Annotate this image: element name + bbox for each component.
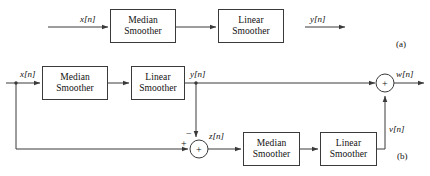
block-b-median-smoother-forward: Median Smoother	[42, 66, 108, 100]
label-b-correction-vn: v[n]	[389, 125, 405, 134]
block-a-median-line2: Smoother	[124, 26, 162, 37]
block-b-median-res-line2: Smoother	[253, 149, 291, 160]
adder-inner-plus-symbol: +	[196, 145, 202, 155]
label-a-input-xn: x[n]	[80, 15, 96, 24]
figure-block-diagram: Median Smoother Linear Smoother x[n] y[n…	[0, 0, 430, 176]
sign-positive-xn: +	[181, 139, 187, 149]
block-b-median-res-line1: Median	[257, 138, 287, 149]
label-b-input-xn: x[n]	[20, 70, 36, 79]
caption-b: (b)	[397, 152, 408, 161]
label-b-mid-yn: y[n]	[190, 70, 206, 79]
block-b-linear-fwd-line1: Linear	[145, 72, 170, 83]
caption-a: (a)	[396, 40, 406, 49]
block-b-linear-smoother-forward: Linear Smoother	[131, 66, 185, 100]
block-a-linear-line2: Smoother	[232, 26, 270, 37]
block-a-median-line1: Median	[128, 15, 158, 26]
block-b-linear-smoother-residual: Linear Smoother	[320, 132, 377, 166]
block-a-linear-smoother: Linear Smoother	[218, 9, 284, 43]
adder-output-plus-symbol: +	[382, 79, 388, 89]
block-a-median-smoother: Median Smoother	[110, 9, 176, 43]
block-b-median-fwd-line2: Smoother	[56, 83, 94, 94]
block-b-linear-fwd-line2: Smoother	[139, 83, 177, 94]
label-b-error-zn: z[n]	[209, 132, 224, 141]
label-a-output-yn: y[n]	[310, 15, 326, 24]
block-b-median-smoother-residual: Median Smoother	[243, 132, 300, 166]
block-b-linear-res-line1: Linear	[336, 138, 361, 149]
label-b-output-wn: w[n]	[396, 70, 414, 79]
block-b-median-fwd-line1: Median	[60, 72, 90, 83]
block-b-linear-res-line2: Smoother	[330, 149, 368, 160]
block-a-linear-line1: Linear	[238, 15, 263, 26]
